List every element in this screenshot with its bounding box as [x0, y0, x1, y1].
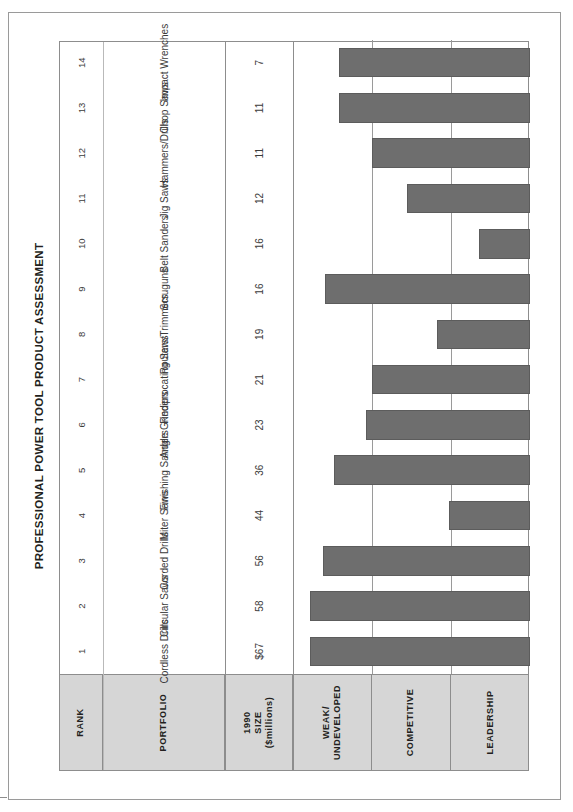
portfolio-name: Scruguns [103, 266, 225, 311]
chart-bar [339, 48, 530, 78]
size-value: 36 [225, 448, 293, 493]
rank-value: 13 [60, 85, 103, 130]
rank-value: 8 [60, 312, 103, 357]
portfolio-name: Corded Drills [103, 538, 225, 583]
rank-value: 6 [60, 402, 103, 447]
size-value: 16 [225, 266, 293, 311]
rank-value: 9 [60, 266, 103, 311]
size-value: 21 [225, 357, 293, 402]
chart-bar [310, 591, 530, 621]
column-header-portfolio: PORTFOLIO [103, 675, 225, 770]
crop-mark [0, 797, 7, 798]
chart-bar [449, 501, 530, 531]
size-value: 12 [225, 176, 293, 221]
size-value: 23 [225, 402, 293, 447]
size-value: 56 [225, 538, 293, 583]
size-value: 16 [225, 221, 293, 266]
chart-bar [372, 365, 530, 395]
zone-label-leadership: LEADERSHIP [451, 675, 530, 770]
table-row: 10Belt Sanders16 [60, 221, 528, 266]
chart-bar [325, 274, 530, 304]
zone-label-competitive: COMPETITIVE [372, 675, 451, 770]
figure-page: PROFESSIONAL POWER TOOL PRODUCT ASSESSME… [0, 0, 573, 812]
portfolio-name: Belt Sanders [103, 221, 225, 266]
chart-bar [310, 637, 530, 667]
rank-value: 10 [60, 221, 103, 266]
rank-value: 4 [60, 493, 103, 538]
rank-value: 7 [60, 357, 103, 402]
column-header-size: 1990SIZE($millions) [225, 675, 293, 770]
chart-bar [479, 229, 530, 259]
portfolio-name: Impact Wrenches [103, 40, 225, 85]
chart-bar [366, 410, 530, 440]
assessment-table: RANKPORTFOLIO1990SIZE($millions)WEAK/UND… [59, 41, 529, 771]
zone-label-weak: WEAK/UNDEVELOPED [293, 675, 372, 770]
rank-value: 5 [60, 448, 103, 493]
page-title: PROFESSIONAL POWER TOOL PRODUCT ASSESSME… [33, 21, 45, 791]
size-value: 11 [225, 131, 293, 176]
rank-value: 3 [60, 538, 103, 583]
column-header-rank: RANK [60, 675, 103, 770]
size-value: 44 [225, 493, 293, 538]
rank-value: 14 [60, 40, 103, 85]
size-value: 19 [225, 312, 293, 357]
rotated-chart-stage: PROFESSIONAL POWER TOOL PRODUCT ASSESSME… [33, 21, 541, 791]
portfolio-name: Routers/Trimmers [103, 312, 225, 357]
rank-value: 11 [60, 176, 103, 221]
rank-value: 2 [60, 583, 103, 628]
size-value: 11 [225, 85, 293, 130]
chart-bar [407, 184, 530, 214]
chart-bar [323, 546, 530, 576]
portfolio-name: Hammers/Drills [103, 131, 225, 176]
chart-bar [437, 320, 530, 350]
rank-value: 12 [60, 131, 103, 176]
chart-bar [334, 455, 530, 485]
chart-bar [372, 138, 530, 168]
rank-value: 1 [60, 629, 103, 674]
portfolio-name: Circular Saws [103, 583, 225, 628]
size-value: 58 [225, 583, 293, 628]
header-band: RANKPORTFOLIO1990SIZE($millions)WEAK/UND… [60, 674, 528, 770]
size-value: 7 [225, 40, 293, 85]
chart-bar [339, 93, 530, 123]
size-value: $67 [225, 629, 293, 674]
